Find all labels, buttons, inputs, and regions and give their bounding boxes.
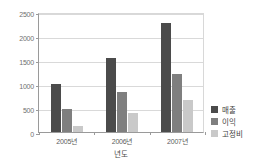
y-axis-tick-label: 500 xyxy=(23,107,34,114)
y-axis-tick-mark xyxy=(36,14,39,15)
legend-item-label: 고정비 xyxy=(222,128,242,139)
legend-item[interactable]: 매출 xyxy=(211,103,242,115)
chart-legend: 매출이익고정비 xyxy=(211,103,242,139)
x-axis-tick-label: 2006년 xyxy=(112,136,133,146)
bar xyxy=(117,92,127,132)
bar-chart: 05001000150020002500 2005년2006년2007년 년도 … xyxy=(0,0,257,164)
y-axis-tick-mark xyxy=(36,110,39,111)
x-axis-tick-label: 2005년 xyxy=(56,136,77,146)
legend-swatch-sales xyxy=(211,106,218,113)
y-axis-tick-label: 1500 xyxy=(19,59,34,66)
bar xyxy=(128,113,138,132)
x-axis-title: 년도 xyxy=(38,148,204,159)
legend-swatch-profit xyxy=(211,118,218,125)
bar xyxy=(106,58,116,132)
x-axis-tick-mark xyxy=(94,132,95,135)
y-axis-tick-mark xyxy=(36,62,39,63)
legend-swatch-fixedcost xyxy=(211,130,218,137)
y-axis-tick-label: 2500 xyxy=(19,11,34,18)
x-axis-tick-mark xyxy=(39,132,40,135)
y-axis-tick-mark xyxy=(36,38,39,39)
bar-group xyxy=(161,14,193,132)
legend-item[interactable]: 이익 xyxy=(211,115,242,127)
y-axis-tick-label: 1000 xyxy=(19,83,34,90)
bar-group xyxy=(51,14,83,132)
legend-item-label: 매출 xyxy=(222,104,236,115)
bar xyxy=(172,74,182,132)
bar xyxy=(51,84,61,132)
bar xyxy=(62,109,72,132)
bar xyxy=(161,23,171,132)
legend-item[interactable]: 고정비 xyxy=(211,127,242,139)
bar-group xyxy=(106,14,138,132)
y-axis-tick-label: 2000 xyxy=(19,35,34,42)
x-axis-tick-mark xyxy=(150,132,151,135)
x-axis-tick-mark xyxy=(205,132,206,135)
cropped-top-fragment xyxy=(0,0,257,6)
x-axis-tick-label: 2007년 xyxy=(167,136,188,146)
bar xyxy=(73,126,83,132)
y-axis-tick-mark xyxy=(36,86,39,87)
y-axis-tick-label: 0 xyxy=(30,131,34,138)
bar xyxy=(183,100,193,132)
plot-area: 05001000150020002500 2005년2006년2007년 xyxy=(38,13,204,133)
legend-item-label: 이익 xyxy=(222,116,236,127)
